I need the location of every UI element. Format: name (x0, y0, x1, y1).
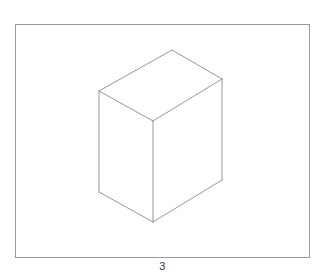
figure-drawing-canvas (0, 0, 325, 280)
figure-caption: 3 (0, 259, 325, 273)
figure-container: 3 (0, 0, 325, 280)
